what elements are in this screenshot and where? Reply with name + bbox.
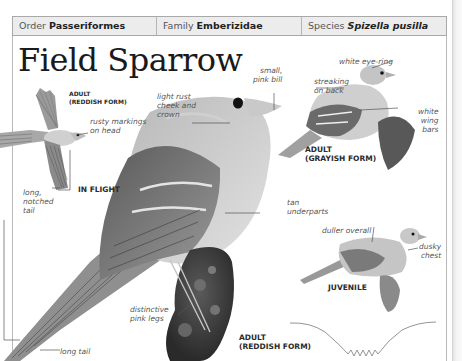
label-notched-tail: long, notched tail (23, 188, 54, 215)
flight-pattern-icon (290, 322, 436, 356)
juvenile-caption: JUVENILE (328, 283, 367, 292)
label-streaking-on-back: streaking on back (314, 77, 349, 95)
grayish-form-caption: ADULT (GRAYISH FORM) (305, 145, 376, 163)
juvenile-illustration (300, 228, 427, 312)
perch-foliage-illustration (166, 247, 234, 361)
label-pink-legs: distinctive pink legs (130, 305, 169, 323)
label-dusky-chest: dusky chest (419, 242, 441, 260)
flight-pose-caption: IN FLIGHT (78, 185, 120, 194)
label-long-tail: long tail (60, 347, 90, 356)
label-tan-underparts: tan underparts (287, 198, 328, 216)
label-duller-overall: duller overall (322, 226, 371, 235)
label-small-pink-bill: small, pink bill (253, 66, 282, 84)
label-white-wing-bars: white wing bars (418, 107, 439, 134)
main-bird-caption: ADULT (REDDISH FORM) (239, 333, 311, 351)
field-guide-page: Order Passeriformes Family Emberizidae S… (0, 0, 462, 361)
label-light-rust-cheek: light rust cheek and crown (157, 92, 196, 119)
bird-illustrations (0, 0, 462, 361)
flight-form-caption: ADULT (REDDISH FORM) (69, 90, 127, 106)
label-rusty-markings: rusty markings on head (90, 117, 146, 135)
label-white-eye-ring: white eye-ring (339, 57, 393, 66)
